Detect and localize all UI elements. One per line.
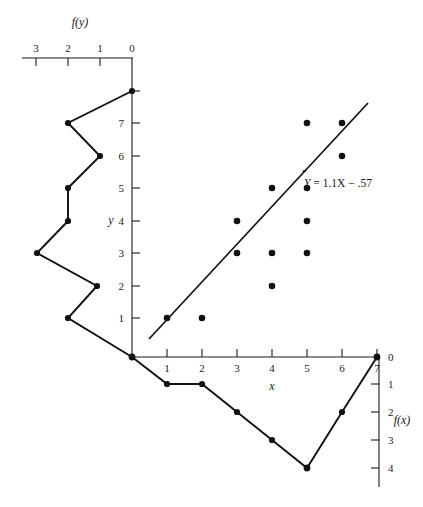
scatter-dot (339, 120, 346, 127)
scatter-dot (339, 153, 346, 160)
x-tick-label-5: 5 (304, 362, 310, 374)
fx-axis-title: f(x) (394, 413, 411, 427)
y-marginal-vertex (94, 283, 100, 289)
x-tick-label-2: 2 (199, 362, 205, 374)
y-axis-group: 1 2 3 4 5 6 7 y (107, 58, 140, 357)
x-axis-group: 1 2 3 4 5 6 7 x (132, 349, 380, 393)
y-marginal-vertex (65, 218, 71, 224)
regression-equation-body: = 1.1X − .57 (310, 177, 372, 189)
y-tick-label-6: 6 (119, 150, 125, 162)
y-tick-label-1: 1 (119, 312, 125, 324)
scatter-dot (269, 185, 276, 192)
scatter-dot (199, 315, 206, 322)
fx-tick-label-2: 2 (388, 406, 394, 418)
fy-tick-label-1: 1 (97, 42, 103, 54)
x-marginal-vertex (199, 381, 205, 387)
scatter-dot (304, 218, 311, 225)
y-tick-label-5: 5 (119, 182, 125, 194)
x-marginal-vertex (339, 409, 345, 415)
scatterplot-with-marginal-distributions: 3 2 1 0 f(y) 1 2 3 4 5 6 7 y (0, 0, 423, 507)
scatter-dot (234, 218, 241, 225)
statistical-figure: 3 2 1 0 f(y) 1 2 3 4 5 6 7 y (0, 0, 423, 507)
regression-line (149, 103, 368, 339)
x-marginal-vertex (164, 381, 170, 387)
y-tick-label-7: 7 (119, 117, 125, 129)
fy-axis-group: 3 2 1 0 f(y) (22, 15, 135, 66)
fy-axis-title: f(y) (72, 15, 89, 29)
y-tick-label-4: 4 (119, 215, 125, 227)
fy-tick-label-0: 0 (129, 42, 135, 54)
y-marginal-vertex (129, 88, 135, 94)
y-marginal-vertex (97, 153, 103, 159)
x-marginal-vertex (374, 354, 381, 361)
scatter-dot (269, 283, 276, 290)
y-marginal-vertex (65, 185, 71, 191)
regression-equation-label: Y = 1.1X − .57 ̂ (302, 170, 372, 189)
fy-tick-label-2: 2 (65, 42, 71, 54)
y-tick-label-2: 2 (119, 280, 125, 292)
x-marginal-vertex (234, 409, 240, 415)
scatter-dot (304, 250, 311, 257)
scatter-dot (269, 250, 276, 257)
y-tick-label-3: 3 (119, 247, 125, 259)
y-marginal-vertex (34, 250, 40, 256)
fx-tick-label-4: 4 (388, 462, 394, 474)
y-marginal-vertex (65, 120, 71, 126)
fx-tick-label-3: 3 (388, 434, 394, 446)
x-tick-label-4: 4 (269, 362, 275, 374)
fx-tick-label-0: 0 (388, 351, 394, 363)
regression-line-group (149, 103, 368, 339)
regression-equation-text: Y = 1.1X − .57 (304, 177, 372, 189)
x-tick-label-1: 1 (164, 362, 170, 374)
fy-tick-label-3: 3 (33, 42, 39, 54)
y-marginal-vertex (65, 315, 71, 321)
x-axis-title: x (268, 379, 275, 393)
scatter-points-group (164, 120, 346, 322)
x-tick-label-6: 6 (339, 362, 345, 374)
x-tick-label-3: 3 (234, 362, 240, 374)
x-marginal-vertex (269, 437, 275, 443)
scatter-dot (164, 315, 171, 322)
scatter-dot (234, 250, 241, 257)
fx-tick-label-1: 1 (388, 378, 394, 390)
x-marginal-vertex (304, 465, 311, 472)
scatter-dot (304, 120, 311, 127)
y-axis-title: y (107, 213, 114, 227)
